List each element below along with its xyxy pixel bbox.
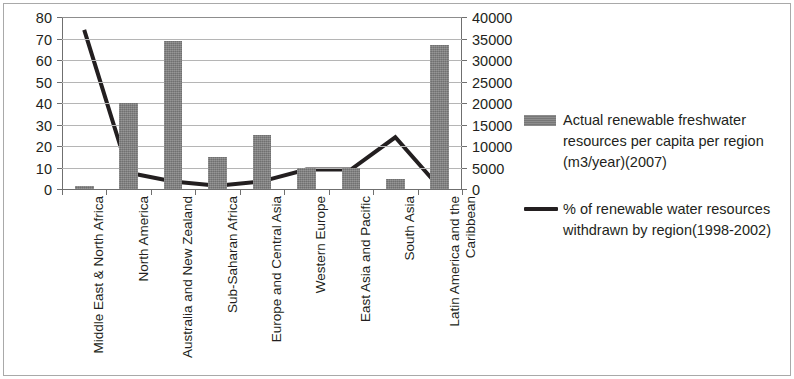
y-axis-right-tick-label: 30000 <box>472 54 512 69</box>
bar <box>164 41 183 189</box>
chart-legend: Actual renewable freshwater resources pe… <box>524 110 786 267</box>
bar-swatch-icon <box>524 115 556 126</box>
x-axis-tickmark <box>284 190 285 195</box>
bar <box>119 103 138 189</box>
y-axis-left-tickmark <box>57 125 62 126</box>
y-axis-right-tickmark <box>462 168 467 169</box>
y-axis-left-tick-label: 70 <box>36 33 52 48</box>
x-axis-category-labels: Middle East & North AfricaNorth AmericaA… <box>62 196 462 376</box>
y-axis-right-tickmark <box>462 17 467 18</box>
category-axis-line <box>62 189 462 190</box>
y-axis-left-tick-label: 30 <box>36 119 52 134</box>
plot-wrapper: 01020304050607080 0500010000150002000025… <box>0 0 520 379</box>
y-axis-left-tick-label: 50 <box>36 76 52 91</box>
x-axis-tickmark <box>329 190 330 195</box>
y-axis-left-tickmark <box>57 82 62 83</box>
gridline <box>62 39 462 40</box>
y-axis-right-tickmark <box>462 82 467 83</box>
x-axis-category-label: East Asia and Pacific <box>358 196 374 371</box>
gridline <box>62 82 462 83</box>
y-axis-left-tickmark <box>57 60 62 61</box>
y-axis-right-tickmark <box>462 146 467 147</box>
y-axis-right-tick-label: 5000 <box>472 162 504 177</box>
x-axis-category-label: North America <box>136 196 152 371</box>
y-axis-left-tickmark <box>57 146 62 147</box>
bar <box>297 168 316 190</box>
x-axis-tickmark <box>462 190 463 195</box>
x-axis-category-label: Middle East & North Africa <box>91 196 107 371</box>
legend-item-bar-series: Actual renewable freshwater resources pe… <box>524 110 786 173</box>
x-axis-category-label: Sub-Saharan Africa <box>225 196 241 371</box>
y-axis-right-tick-label: 15000 <box>472 119 512 134</box>
y-axis-right-tick-label: 40000 <box>472 11 512 26</box>
legend-item-line-series: % of renewable water resources withdrawn… <box>524 199 786 241</box>
line-swatch-icon <box>524 207 558 211</box>
y-axis-left-tickmark <box>57 39 62 40</box>
chart-figure: 01020304050607080 0500010000150002000025… <box>0 0 794 379</box>
plot-area <box>62 18 462 190</box>
y-axis-right: 0500010000150002000025000300003500040000 <box>466 14 526 194</box>
x-axis-tickmark <box>151 190 152 195</box>
y-axis-left-tickmark <box>57 168 62 169</box>
y-axis-left: 01020304050607080 <box>18 14 56 194</box>
bar <box>430 45 449 189</box>
right-axis-line <box>461 18 462 190</box>
x-axis-category-label: Latin America and the Caribbean <box>447 196 479 371</box>
legend-label-bar-series: Actual renewable freshwater resources pe… <box>563 110 786 173</box>
legend-label-line-series: % of renewable water resources withdrawn… <box>563 199 786 241</box>
x-axis-tickmark <box>195 190 196 195</box>
x-axis-category-label: Western Europe <box>313 196 329 371</box>
y-axis-right-tickmark <box>462 39 467 40</box>
y-axis-left-tickmark <box>57 103 62 104</box>
y-axis-right-tick-label: 35000 <box>472 33 512 48</box>
y-axis-left-tick-label: 60 <box>36 54 52 69</box>
gridline <box>62 17 462 18</box>
x-axis-tickmark <box>240 190 241 195</box>
y-axis-right-tickmark <box>462 103 467 104</box>
y-axis-right-tick-label: 25000 <box>472 76 512 91</box>
y-axis-left-tick-label: 20 <box>36 140 52 155</box>
x-axis-tickmark <box>418 190 419 195</box>
x-axis-tickmark <box>62 190 63 195</box>
bar <box>386 179 405 189</box>
x-axis-category-label: South Asia <box>402 196 418 371</box>
y-axis-left-tick-label: 80 <box>36 11 52 26</box>
bar <box>342 168 361 190</box>
x-axis-category-label: Europe and Central Asia <box>269 196 285 371</box>
gridline <box>62 60 462 61</box>
y-axis-right-tickmark <box>462 60 467 61</box>
left-axis-line <box>62 18 63 190</box>
y-axis-right-tick-label: 10000 <box>472 140 512 155</box>
y-axis-right-tick-label: 20000 <box>472 97 512 112</box>
bar <box>253 135 272 189</box>
y-axis-right-tickmark <box>462 125 467 126</box>
y-axis-left-tick-label: 40 <box>36 97 52 112</box>
x-axis-category-label: Australia and New Zealand <box>180 196 196 371</box>
bar <box>75 186 94 189</box>
x-axis-tickmark <box>106 190 107 195</box>
y-axis-left-tick-label: 10 <box>36 162 52 177</box>
x-axis-tickmark <box>373 190 374 195</box>
y-axis-left-tickmark <box>57 17 62 18</box>
bar <box>208 157 227 189</box>
y-axis-left-tick-label: 0 <box>44 183 52 198</box>
